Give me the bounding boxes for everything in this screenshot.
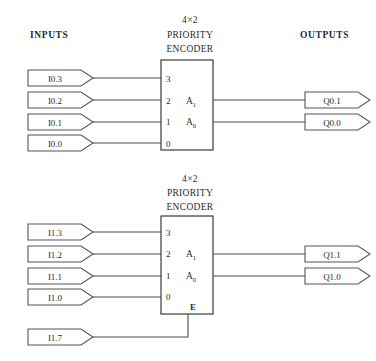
encoder-bottom-pin-0: 0	[166, 292, 171, 302]
encoder-bottom-pin-2: 2	[166, 249, 171, 259]
inputs-header: INPUTS	[30, 30, 68, 40]
input-flag-label-i0-2: I0.2	[48, 96, 62, 106]
encoder-top-title-line3: ENCODER	[167, 44, 214, 54]
outputs-header: OUTPUTS	[300, 30, 349, 40]
output-flag-label-q1-1: Q1.1	[323, 250, 341, 260]
encoder-bottom-title-line3: ENCODER	[167, 202, 214, 212]
diagram-canvas: INPUTS OUTPUTS 4×2 PRIORITY ENCODER 3 2 …	[0, 0, 376, 361]
input-flag-label-i1-7: I1.7	[48, 333, 63, 343]
output-flag-label-q0-1: Q0.1	[323, 96, 341, 106]
encoder-top-pin-0: 0	[166, 139, 171, 149]
encoder-bottom-enable-pin: E	[190, 302, 196, 312]
priority-encoder-diagram: INPUTS OUTPUTS 4×2 PRIORITY ENCODER 3 2 …	[0, 0, 376, 361]
encoder-bottom-pin-1: 1	[166, 271, 171, 281]
encoder-top-title-line2: PRIORITY	[167, 30, 213, 40]
input-flag-label-i0-3: I0.3	[48, 74, 63, 84]
encoder-top-pin-3: 3	[166, 74, 171, 84]
encoder-bottom-title-line1: 4×2	[182, 174, 198, 184]
input-flag-label-i1-0: I1.0	[48, 293, 63, 303]
encoder-top-pin-2: 2	[166, 96, 171, 106]
output-flag-label-q0-0: Q0.0	[323, 118, 341, 128]
input-flag-label-i0-1: I0.1	[48, 118, 62, 128]
input-flag-label-i1-2: I1.2	[48, 250, 62, 260]
input-flag-label-i1-1: I1.1	[48, 272, 62, 282]
output-flag-label-q1-0: Q1.0	[323, 272, 341, 282]
encoder-bottom-title-line2: PRIORITY	[167, 188, 213, 198]
input-flag-label-i0-0: I0.0	[48, 139, 63, 149]
encoder-top-title-line1: 4×2	[182, 15, 198, 25]
input-flag-label-i1-3: I1.3	[48, 228, 63, 238]
encoder-top-pin-1: 1	[166, 117, 171, 127]
encoder-bottom-pin-3: 3	[166, 228, 171, 238]
wire-i1-7-enable	[93, 314, 188, 337]
